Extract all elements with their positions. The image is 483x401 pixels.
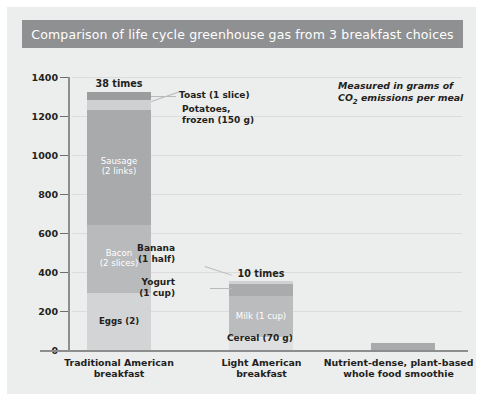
ytick-mark-1000 — [60, 155, 68, 156]
segment-milk[interactable]: Milk (1 cup) — [229, 296, 293, 338]
annotation-toast-line1: Toast (1 slice) — [179, 90, 250, 101]
ytick-mark-400 — [60, 272, 68, 273]
annotation-banana-line2: (1 half) — [110, 254, 175, 265]
annotation-potatoes: Potatoes, frozen (150 g) — [182, 104, 254, 125]
ytick-label-800: 800 — [8, 189, 58, 200]
segment-sausage[interactable]: Sausage (2 links) — [87, 110, 151, 225]
xlabel-light-american-breakfast: Light American breakfast — [209, 357, 314, 380]
xlabel-traditional-american-breakfast: Traditional American breakfast — [54, 357, 184, 380]
annotation-yogurt: Yogurt (1 cup) — [110, 277, 175, 298]
annotation-yogurt-line2: (1 cup) — [110, 288, 175, 299]
segment-sausage-label-line2: (2 links) — [102, 167, 137, 177]
bar-traditional-american-breakfast[interactable]: Sausage (2 links) Bacon (2 slices) Eggs … — [87, 92, 151, 350]
annotation-banana-line1: Banana — [110, 243, 175, 254]
ytick-label-200: 200 — [8, 306, 58, 317]
unit-note-line1: Measured in grams of — [338, 80, 478, 92]
ytick-mark-600 — [60, 233, 68, 234]
leader-line-yogurt — [210, 288, 232, 289]
xlabel-1-line2: breakfast — [209, 368, 314, 379]
xlabel-1-line1: Light American — [209, 357, 314, 368]
ytick-mark-1400 — [60, 77, 68, 78]
multiplier-label-bar-0: 38 times — [74, 78, 164, 89]
ytick-label-400: 400 — [8, 267, 58, 278]
xlabel-2-line1: Nutrient-dense, plant-based — [321, 357, 476, 368]
y-axis-line — [68, 77, 70, 351]
ytick-label-1200: 1200 — [8, 111, 58, 122]
ytick-label-1400: 1400 — [8, 72, 58, 83]
segment-milk-label: Milk (1 cup) — [236, 312, 286, 322]
unit-note-rest: emissions per meal — [358, 92, 464, 103]
annotation-toast: Toast (1 slice) — [179, 90, 250, 101]
annotation-yogurt-line1: Yogurt — [110, 277, 175, 288]
ytick-mark-1200 — [60, 116, 68, 117]
annotation-potatoes-line2: frozen (150 g) — [182, 115, 254, 126]
xlabel-2-line2: whole food smoothie — [321, 368, 476, 379]
segment-eggs-label: Eggs (2) — [99, 317, 139, 327]
xlabel-0-line1: Traditional American — [54, 357, 184, 368]
ytick-label-600: 600 — [8, 228, 58, 239]
annotation-potatoes-line1: Potatoes, — [182, 104, 254, 115]
ytick-label-1000: 1000 — [8, 150, 58, 161]
annotation-banana: Banana (1 half) — [110, 243, 175, 264]
xlabel-0-line2: breakfast — [54, 368, 184, 379]
segment-potatoes[interactable] — [87, 100, 151, 110]
chart-figure: Comparison of life cycle greenhouse gas … — [0, 0, 483, 401]
xlabel-nutrient-dense-smoothie: Nutrient-dense, plant-based whole food s… — [321, 357, 476, 380]
segment-toast[interactable] — [87, 92, 151, 100]
x-axis-line — [40, 350, 468, 352]
unit-note: Measured in grams of CO2 emissions per m… — [338, 80, 478, 107]
unit-note-co2: CO — [338, 92, 353, 103]
ytick-mark-200 — [60, 311, 68, 312]
segment-yogurt[interactable] — [229, 284, 293, 296]
plot-area: 1400 1200 1000 800 600 400 200 0 — [0, 0, 483, 401]
unit-note-line2: CO2 emissions per meal — [338, 92, 478, 107]
annotation-cereal-line1: Cereal (70 g) — [227, 333, 293, 344]
annotation-cereal: Cereal (70 g) — [227, 333, 293, 344]
bar-nutrient-dense-smoothie[interactable] — [371, 343, 435, 350]
ytick-mark-800 — [60, 194, 68, 195]
segment-eggs[interactable]: Eggs (2) — [87, 293, 151, 350]
segment-smoothie[interactable] — [371, 343, 435, 350]
